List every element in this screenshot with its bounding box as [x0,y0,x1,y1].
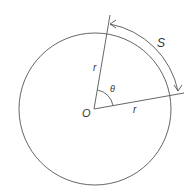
arc-label-s: S [157,36,165,50]
radius-label-lower: r [133,104,137,115]
diagram-canvas: S r θ O r [0,0,194,194]
radius-label-upper: r [93,62,97,73]
arc-length-diagram: S r θ O r [0,0,194,194]
angle-label-theta: θ [110,84,115,94]
center-label-o: O [82,107,91,119]
arc-length-dimension [110,24,178,91]
